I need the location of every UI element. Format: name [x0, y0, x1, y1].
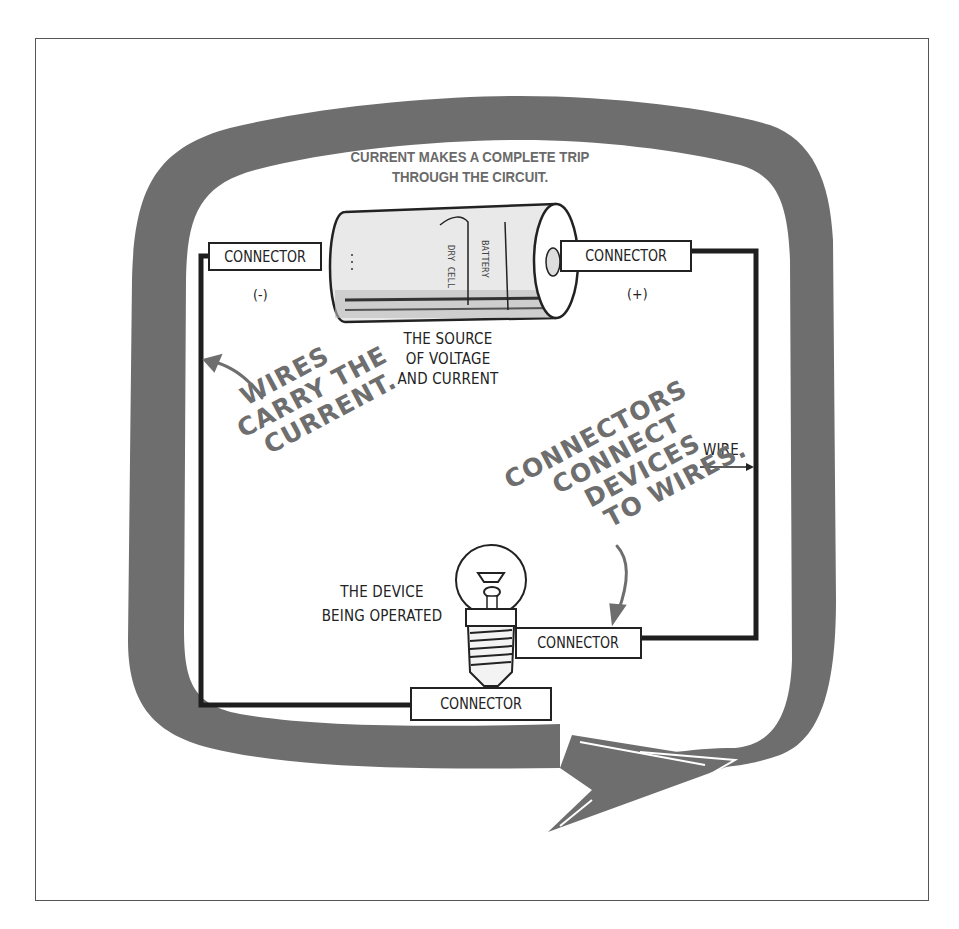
battery-icon: BATTERY DRY CELL [330, 204, 578, 322]
positive-polarity-label: (+) [627, 286, 648, 302]
connector-lamp-side: CONNECTOR [515, 627, 642, 659]
diagram-title: CURRENT MAKES A COMPLETE TRIP THROUGH TH… [320, 147, 619, 187]
title-line-1: CURRENT MAKES A COMPLETE TRIP [320, 147, 619, 167]
battery-label: THE SOURCE OF VOLTAGE AND CURRENT [393, 329, 503, 389]
connector-negative: CONNECTOR [208, 242, 322, 271]
connector-lamp-base: CONNECTOR [410, 687, 552, 721]
title-line-2: THROUGH THE CIRCUIT. [320, 167, 619, 187]
connectors-pointer-arrow-icon [611, 546, 626, 622]
connector-positive: CONNECTOR [560, 240, 692, 272]
diagram-graphics: BATTERY DRY CELL [0, 0, 959, 929]
light-bulb-icon [456, 545, 526, 696]
svg-text:DRY CELL: DRY CELL [446, 245, 456, 288]
device-label: THE DEVICE BEING OPERATED [317, 580, 447, 628]
svg-text:BATTERY: BATTERY [480, 240, 490, 279]
circuit-diagram: BATTERY DRY CELL [0, 0, 959, 929]
negative-polarity-label: (-) [253, 287, 268, 303]
